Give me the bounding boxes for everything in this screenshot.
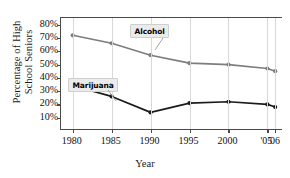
x-axis-tick-label: 1990	[140, 136, 160, 146]
x-axis-tick-label: 1980	[62, 136, 82, 146]
x-axis-tick-label: 2000	[217, 136, 237, 146]
annotation-leader-lines	[0, 0, 290, 178]
x-axis-tick-label: '06	[268, 136, 280, 146]
x-axis-tick-label: 1985	[101, 136, 121, 146]
line-chart: Percentage of High School Seniors 10%20%…	[0, 0, 290, 178]
x-axis-tick-label: 1995	[179, 136, 199, 146]
leader-line-marijuana	[108, 90, 116, 101]
leader-line-alcohol	[155, 38, 163, 50]
